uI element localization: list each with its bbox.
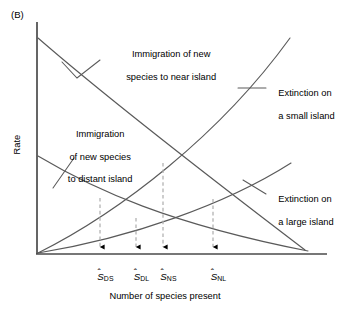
tick-label-s-nl: SˆNL: [193, 260, 233, 293]
annotation-line-3: to distant island: [68, 174, 133, 184]
annotation-line-1: Immigration of new: [132, 49, 211, 59]
tick-subscript: NL: [217, 275, 226, 282]
annotation-extinction-small-island: Extinction on a small island: [268, 77, 348, 133]
tick-symbol: Sˆ: [211, 271, 218, 282]
tick-symbol: Sˆ: [160, 271, 167, 282]
annotation-immigration-distant-island: Immigration of new species to distant is…: [40, 118, 150, 196]
annotation-line-2: a small island: [278, 111, 334, 121]
figure-panel-b: (B) Immigration of new species to near i…: [0, 0, 350, 316]
hat-accent: ˆ: [211, 266, 214, 277]
annotation-extinction-large-island: Extinction on a large island: [268, 183, 348, 239]
y-axis-title: Rate: [12, 120, 23, 170]
tick-subscript: NS: [167, 275, 177, 282]
panel-label: (B): [11, 9, 24, 20]
tick-label-s-ds: SˆDS: [80, 260, 120, 293]
hat-accent: ˆ: [160, 266, 163, 277]
tick-label-s-ns: SˆNS: [143, 260, 183, 293]
annotation-line-2: a large island: [278, 217, 333, 227]
hat-accent: ˆ: [134, 266, 137, 277]
tick-symbol: Sˆ: [97, 271, 104, 282]
annotation-line-1: Extinction on: [278, 194, 331, 204]
annotation-line-2: species to near island: [126, 72, 216, 82]
leader-extinction-large: [243, 180, 266, 194]
annotation-line-2: of new species: [69, 152, 131, 162]
annotation-line-1: Extinction on: [278, 88, 331, 98]
tick-symbol: Sˆ: [134, 271, 141, 282]
annotation-immigration-near-island: Immigration of new species to near islan…: [104, 38, 228, 94]
tick-subscript: DS: [104, 275, 114, 282]
annotation-line-1: Immigration: [76, 129, 125, 139]
x-axis-title: Number of species present: [75, 291, 255, 302]
hat-accent: ˆ: [97, 266, 100, 277]
